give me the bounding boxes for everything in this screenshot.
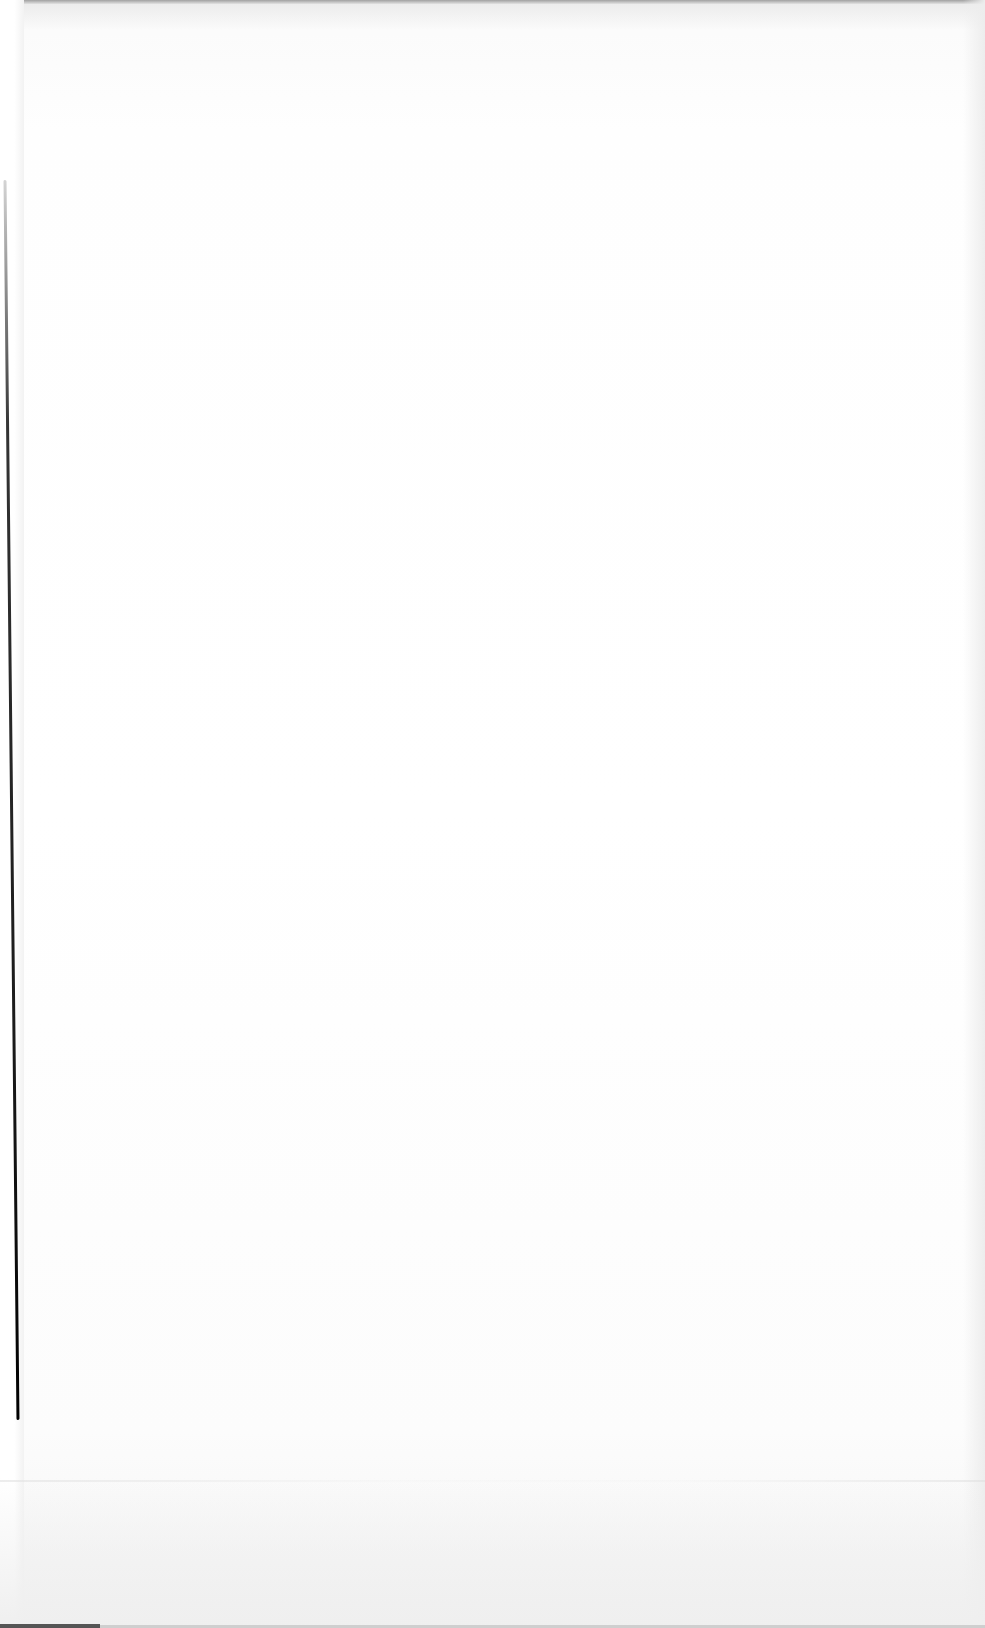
- page-right-shadow: [963, 0, 985, 1628]
- blank-scanned-page: [0, 0, 985, 1628]
- page-bottom-shadow: [0, 1478, 985, 1628]
- bottom-corner-mark: [0, 1624, 100, 1628]
- page-top-shadow: [20, 4, 985, 30]
